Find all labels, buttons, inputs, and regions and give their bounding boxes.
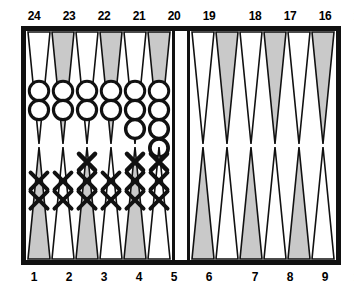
- point-number-10: 10: [348, 268, 354, 286]
- point-23[interactable]: [51, 31, 75, 145]
- point-number-24: 24: [22, 7, 46, 25]
- point-21[interactable]: [99, 31, 123, 145]
- playing-surface: [26, 31, 336, 260]
- quadrant-top-right: [190, 31, 336, 145]
- point-6[interactable]: [147, 146, 171, 260]
- point-1[interactable]: [27, 146, 51, 260]
- point-18[interactable]: [191, 31, 215, 145]
- point-4[interactable]: [99, 146, 123, 260]
- point-number-9: 9: [313, 268, 337, 286]
- point-7[interactable]: [191, 146, 215, 260]
- point-number-2: 2: [57, 268, 81, 286]
- point-number-4: 4: [127, 268, 151, 286]
- point-14[interactable]: [287, 31, 311, 145]
- quadrant-bottom-left: [26, 146, 172, 260]
- point-19[interactable]: [147, 31, 171, 145]
- board-frame: [21, 26, 341, 265]
- backgammon-board-figure: 242322212019181716151413 123456789101112: [0, 0, 354, 295]
- point-number-6: 6: [197, 268, 221, 286]
- point-number-20: 20: [162, 7, 186, 25]
- point-15[interactable]: [263, 31, 287, 145]
- point-10[interactable]: [263, 146, 287, 260]
- point-12[interactable]: [311, 146, 335, 260]
- top-point-numbers: 242322212019181716151413: [0, 7, 354, 25]
- point-3[interactable]: [75, 146, 99, 260]
- point-20[interactable]: [123, 31, 147, 145]
- point-22[interactable]: [75, 31, 99, 145]
- point-number-18: 18: [243, 7, 267, 25]
- point-number-3: 3: [92, 268, 116, 286]
- point-8[interactable]: [215, 146, 239, 260]
- point-number-8: 8: [278, 268, 302, 286]
- point-number-23: 23: [57, 7, 81, 25]
- point-number-7: 7: [243, 268, 267, 286]
- point-number-5: 5: [162, 268, 186, 286]
- point-number-21: 21: [127, 7, 151, 25]
- point-13[interactable]: [311, 31, 335, 145]
- point-11[interactable]: [287, 146, 311, 260]
- bottom-point-numbers: 123456789101112: [0, 268, 354, 286]
- point-number-22: 22: [92, 7, 116, 25]
- point-number-17: 17: [278, 7, 302, 25]
- center-bar[interactable]: [172, 31, 190, 260]
- point-number-19: 19: [197, 7, 221, 25]
- point-16[interactable]: [239, 31, 263, 145]
- point-24[interactable]: [27, 31, 51, 145]
- point-2[interactable]: [51, 146, 75, 260]
- point-number-16: 16: [313, 7, 337, 25]
- point-9[interactable]: [239, 146, 263, 260]
- quadrant-bottom-right: [190, 146, 336, 260]
- point-number-1: 1: [22, 268, 46, 286]
- point-5[interactable]: [123, 146, 147, 260]
- point-17[interactable]: [215, 31, 239, 145]
- quadrant-top-left: [26, 31, 172, 145]
- point-number-15: 15: [348, 7, 354, 25]
